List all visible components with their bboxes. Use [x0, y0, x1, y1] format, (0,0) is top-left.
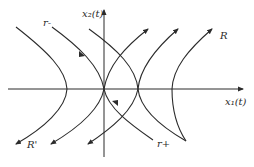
y-axis-label: x₂(t)	[82, 8, 104, 19]
arrow-r-plus-icon	[112, 100, 118, 106]
x-axis-label: x₁(t)	[225, 96, 247, 107]
trajectory-middle-up-lower	[88, 89, 138, 144]
trajectory-origin-up	[104, 29, 148, 89]
trajectory-right-branch	[172, 29, 212, 141]
trajectory-r-minus-lower	[51, 89, 104, 144]
trajectory-r-plus	[104, 89, 153, 140]
label-r-plus: r+	[157, 138, 170, 149]
label-R: R	[219, 30, 228, 41]
label-R-prime: R'	[26, 139, 37, 150]
label-r-minus: r-	[43, 17, 52, 28]
phase-portrait-diagram: x₂(t) x₁(t) r- r+ R R'	[0, 0, 254, 167]
trajectory-middle-up	[138, 29, 178, 89]
trajectory-left-branch	[16, 27, 67, 144]
trajectory-r-minus	[52, 27, 104, 89]
